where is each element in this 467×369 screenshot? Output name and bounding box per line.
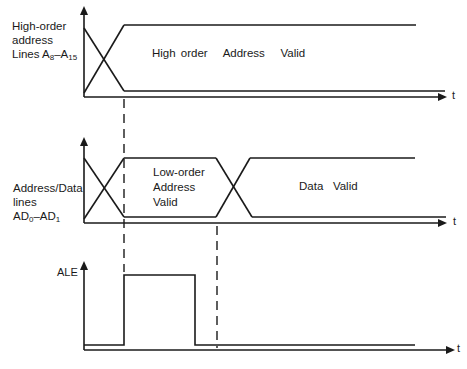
time-label: t (457, 342, 460, 354)
ale-waveform (80, 261, 455, 354)
label-line: Lines A8–A15 (12, 47, 77, 65)
address-data-label: Address/Data lines AD0–AD1 (13, 181, 83, 227)
text-line: Address (153, 180, 205, 195)
time-axis-arrow-icon (438, 93, 447, 101)
low-order-valid-text: Low-order Address Valid (153, 165, 205, 210)
high-order-valid-text: High order Address Valid (152, 46, 305, 61)
address-data-waveform (80, 137, 447, 227)
label-line: High-order (12, 19, 77, 33)
label-line: AD0–AD1 (13, 209, 83, 227)
ale-pulse (84, 275, 415, 345)
high-order-label: High-order address Lines A8–A15 (12, 19, 77, 65)
data-valid-text: Data Valid (299, 179, 358, 194)
y-axis-arrow-icon (80, 137, 88, 146)
label-line: address (12, 33, 77, 47)
label-line: lines (13, 195, 83, 209)
time-label: t (452, 89, 455, 101)
ale-label: ALE (57, 265, 78, 279)
time-axis-arrow-icon (446, 346, 455, 354)
label-line: Address/Data (13, 181, 83, 195)
time-label: t (453, 215, 456, 227)
time-axis-arrow-icon (438, 219, 447, 227)
y-axis-arrow-icon (80, 6, 88, 15)
text-line: Valid (153, 195, 205, 210)
y-axis-arrow-icon (80, 261, 88, 270)
text-line: Low-order (153, 165, 205, 180)
